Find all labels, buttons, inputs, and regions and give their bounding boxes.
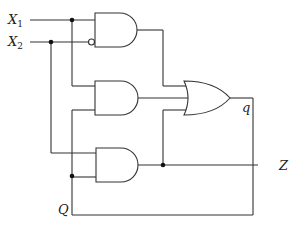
and-gate-top (89, 13, 189, 86)
wire-x1 (30, 20, 95, 86)
and-gate-bottom (96, 110, 258, 182)
inverter-bubble (89, 39, 95, 45)
label-q-upper: Q (58, 202, 69, 217)
label-q-lower: q (242, 100, 250, 115)
junction-dot (70, 174, 75, 179)
wire-x2 (30, 42, 96, 153)
label-z-output: Z (278, 158, 289, 173)
logic-circuit-diagram: X1 X2 (0, 0, 296, 228)
input-label-x2: X2 (7, 34, 23, 51)
junction-dot (49, 40, 54, 45)
input-label-x1: X1 (7, 12, 23, 29)
junction-dot (161, 163, 166, 168)
junction-dot (70, 18, 75, 23)
